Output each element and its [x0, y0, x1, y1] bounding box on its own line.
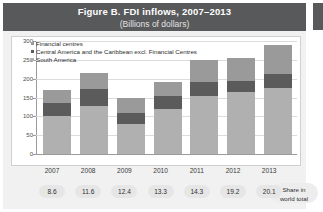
adjacent-column-header — [313, 3, 323, 30]
figure-screenshot: Figure B. FDI inflows, 2007–2013 (Billio… — [0, 0, 323, 212]
share-value-2013: 20.1 — [256, 185, 282, 198]
legend-label-central-america: Central America and the Caribbean excl. … — [36, 48, 197, 55]
bar-segment — [154, 82, 182, 95]
bar-segment — [80, 73, 108, 89]
bar-segment — [80, 106, 108, 154]
bar-2010 — [154, 82, 182, 154]
bar-segment — [190, 96, 218, 154]
x-axis-line — [36, 154, 297, 155]
bar-2012 — [227, 58, 255, 154]
share-value-2009: 12.4 — [111, 185, 137, 198]
bar-segment — [264, 88, 292, 154]
legend-swatch-central-america — [31, 50, 34, 53]
page-gutter — [309, 0, 323, 212]
y-axis-tick-label: 150 — [23, 95, 33, 101]
legend-item-south-america: South America — [31, 56, 197, 64]
bar-segment — [117, 113, 145, 124]
x-axis-label-2010: 2010 — [144, 166, 178, 176]
legend-label-south-america: South America — [36, 56, 76, 63]
bar-segment — [227, 58, 255, 81]
figure-title-bar: Figure B. FDI inflows, 2007–2013 (Billio… — [3, 3, 306, 31]
share-in-world-total-row: Share in world total 8.611.612.413.314.3… — [11, 183, 312, 209]
bar-2007 — [43, 90, 71, 154]
bar-segment — [43, 90, 71, 103]
bar-segment — [117, 98, 145, 113]
y-axis-tick-label: 50 — [26, 132, 33, 138]
bar-segment — [43, 116, 71, 154]
legend-item-financial-centres: Financial centres — [31, 40, 197, 48]
bar-segment — [227, 81, 255, 92]
share-value-2008: 11.6 — [75, 185, 101, 198]
legend-item-central-america: Central America and the Caribbean excl. … — [31, 48, 197, 56]
x-axis-label-2008: 2008 — [71, 166, 105, 176]
share-caption-line2: world total — [280, 195, 308, 202]
bar-segment — [264, 45, 292, 74]
legend-label-financial-centres: Financial centres — [36, 40, 83, 47]
y-axis-tick-mark — [33, 154, 36, 155]
bar-segment — [80, 89, 108, 106]
y-axis-tick-label: 200 — [23, 76, 33, 82]
x-axis-label-2013: 2013 — [252, 166, 286, 176]
bar-segment — [227, 92, 255, 154]
figure-subtitle: (Billions of dollars) — [3, 19, 306, 30]
bar-2011 — [190, 60, 218, 154]
y-axis-tick-label: 100 — [23, 113, 33, 119]
share-caption-line1: Share in — [282, 186, 305, 193]
bar-segment — [154, 109, 182, 154]
x-axis-label-2012: 2012 — [216, 166, 250, 176]
bar-2013 — [264, 45, 292, 154]
x-axis-label-2011: 2011 — [180, 166, 214, 176]
share-value-2011: 14.3 — [184, 185, 210, 198]
chart-legend: Financial centres Central America and th… — [31, 40, 197, 64]
figure-title: Figure B. FDI inflows, 2007–2013 — [3, 3, 306, 19]
x-axis-labels: 2007200820092010201120122013 — [35, 166, 299, 178]
bar-segment — [264, 74, 292, 88]
bar-segment — [43, 103, 71, 116]
figure-container: Figure B. FDI inflows, 2007–2013 (Billio… — [3, 3, 306, 209]
x-axis-label-2009: 2009 — [107, 166, 141, 176]
share-value-2007: 8.6 — [39, 185, 65, 198]
bar-2008 — [80, 73, 108, 154]
x-axis-label-2007: 2007 — [35, 166, 69, 176]
share-value-2012: 19.2 — [220, 185, 246, 198]
share-value-2010: 13.3 — [148, 185, 174, 198]
bar-2009 — [117, 98, 145, 155]
bar-segment — [190, 82, 218, 95]
legend-swatch-financial-centres — [31, 42, 34, 45]
legend-swatch-south-america — [31, 58, 34, 61]
bar-segment — [154, 96, 182, 109]
bar-segment — [117, 124, 145, 154]
